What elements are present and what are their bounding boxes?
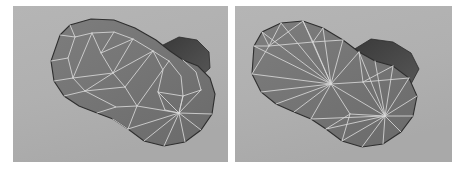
mesh-render-right: [235, 6, 452, 162]
mesh-render-left: [13, 6, 228, 162]
render-panel-right: (b): [235, 6, 452, 162]
render-panel-left: (a): [13, 6, 228, 162]
figure-container: (a): [0, 0, 465, 172]
